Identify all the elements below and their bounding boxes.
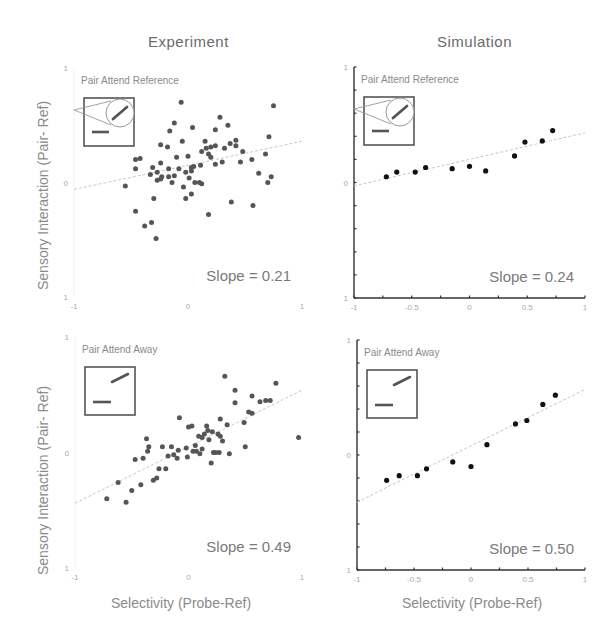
data-point: [229, 199, 234, 204]
svg-text:0: 0: [347, 451, 352, 460]
data-point: [384, 174, 389, 179]
data-point: [265, 180, 270, 185]
data-point: [218, 434, 223, 439]
data-point: [149, 220, 154, 225]
data-point: [258, 399, 263, 404]
data-point: [222, 146, 227, 151]
svg-text:0.5: 0.5: [522, 303, 534, 312]
data-point: [186, 154, 191, 159]
data-point: [250, 203, 255, 208]
data-point: [170, 180, 175, 185]
data-point: [116, 480, 121, 485]
scatter-panel-3: -1-0.500.51101Pair Attend AwaySlope = 0.…: [347, 336, 588, 584]
data-point: [206, 212, 211, 217]
data-point: [177, 415, 182, 420]
data-point: [256, 171, 261, 176]
data-point: [227, 451, 232, 456]
data-point: [183, 170, 188, 175]
data-point: [233, 388, 238, 393]
data-point: [133, 166, 138, 171]
data-point: [540, 402, 545, 407]
data-point: [228, 141, 233, 146]
data-point: [151, 196, 156, 201]
svg-text:1: 1: [344, 63, 349, 72]
svg-text:1: 1: [64, 293, 69, 302]
data-point: [190, 125, 195, 130]
svg-text:0: 0: [186, 302, 191, 311]
svg-text:1: 1: [347, 566, 352, 575]
svg-text:0: 0: [467, 303, 472, 312]
panel-label: Pair Attend Away: [82, 344, 157, 355]
svg-text:0: 0: [65, 449, 70, 458]
data-point: [204, 423, 209, 428]
data-point: [104, 496, 109, 501]
data-point: [155, 170, 160, 175]
data-point: [238, 159, 243, 164]
data-point: [268, 398, 273, 403]
data-point: [553, 393, 558, 398]
data-point: [413, 170, 418, 175]
data-point: [233, 138, 238, 143]
data-point: [165, 145, 170, 150]
stimulus-reference-zoom-icon: [74, 98, 134, 146]
data-point: [166, 453, 171, 458]
scatter-panel-0: -101101Pair Attend ReferenceSlope = 0.21: [64, 64, 305, 311]
data-point: [468, 464, 473, 469]
data-point: [218, 417, 223, 422]
svg-text:1: 1: [344, 294, 349, 303]
data-point: [296, 435, 301, 440]
data-point: [217, 115, 222, 120]
data-point: [263, 398, 268, 403]
data-point: [154, 236, 159, 241]
data-point: [193, 443, 198, 448]
svg-text:0: 0: [186, 573, 191, 582]
data-point: [155, 178, 160, 183]
data-point: [148, 172, 153, 177]
slope-annotation: Slope = 0.50: [489, 540, 574, 557]
data-point: [269, 174, 274, 179]
data-point: [540, 138, 545, 143]
data-point: [199, 149, 204, 154]
data-point: [169, 444, 174, 449]
data-point: [189, 169, 194, 174]
data-point: [174, 155, 179, 160]
panel-label: Pair Attend Away: [364, 347, 439, 358]
data-point: [266, 134, 271, 139]
data-point: [198, 163, 203, 168]
data-point: [242, 420, 247, 425]
data-point: [225, 422, 230, 427]
svg-text:-1: -1: [353, 575, 361, 584]
data-point: [550, 128, 555, 133]
data-point: [151, 478, 156, 483]
data-point: [209, 460, 214, 465]
data-point: [187, 175, 192, 180]
data-point: [176, 166, 181, 171]
data-point: [179, 100, 184, 105]
svg-text:-1: -1: [70, 302, 78, 311]
svg-text:0: 0: [344, 179, 349, 188]
data-point: [222, 374, 227, 379]
slope-annotation: Slope = 0.24: [489, 268, 574, 285]
data-point: [220, 438, 225, 443]
svg-text:0: 0: [469, 575, 474, 584]
data-point: [206, 437, 211, 442]
stimulus-reference-zoom-icon: [354, 97, 414, 145]
svg-text:1: 1: [65, 564, 70, 573]
data-point: [203, 139, 208, 144]
data-point: [450, 459, 455, 464]
data-point: [156, 466, 161, 471]
svg-text:1: 1: [64, 64, 69, 73]
svg-text:1: 1: [347, 336, 352, 345]
scatter-plots: -101101Pair Attend ReferenceSlope = 0.21…: [0, 0, 614, 638]
data-point: [225, 123, 230, 128]
data-point: [263, 151, 268, 156]
data-point: [513, 421, 518, 426]
data-point: [415, 473, 420, 478]
scatter-panel-1: -1-0.500.51101Pair Attend ReferenceSlope…: [344, 63, 588, 312]
data-point: [138, 156, 143, 161]
data-point: [186, 425, 191, 430]
data-point: [397, 473, 402, 478]
svg-text:1: 1: [300, 573, 305, 582]
data-point: [208, 145, 213, 150]
data-point: [191, 449, 196, 454]
